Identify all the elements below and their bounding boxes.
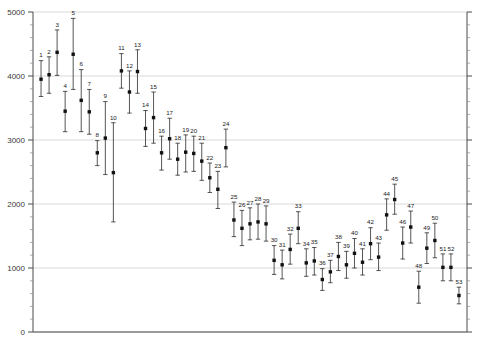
point-marker (337, 255, 340, 258)
point-marker (63, 110, 66, 113)
point-marker (168, 137, 171, 140)
point-marker (264, 222, 267, 225)
point-marker (47, 73, 50, 76)
point-marker (361, 261, 364, 264)
y-tick-label-4000: 4000 (7, 72, 25, 81)
point-label-38: 38 (335, 233, 342, 240)
point-marker (393, 198, 396, 201)
data-point-38 (336, 242, 340, 270)
point-label-41: 41 (359, 240, 366, 247)
point-label-19: 19 (182, 126, 189, 133)
data-point-18 (175, 143, 179, 175)
point-marker (160, 151, 163, 154)
data-point-28 (256, 204, 260, 239)
point-marker (288, 248, 291, 251)
y-tick-label-1000: 1000 (7, 264, 25, 273)
data-point-20 (192, 136, 196, 171)
point-marker (449, 266, 452, 269)
point-label-9: 9 (104, 92, 108, 99)
data-point-2 (47, 57, 51, 93)
data-point-30 (272, 246, 276, 275)
data-point-22 (208, 163, 212, 192)
point-label-20: 20 (190, 127, 197, 134)
point-label-29: 29 (263, 197, 270, 204)
data-point-47 (409, 211, 413, 243)
point-marker (224, 146, 227, 149)
point-marker (192, 152, 195, 155)
chart-container: 010002000300040005000 123456789101112131… (0, 0, 480, 343)
data-point-51 (441, 254, 445, 281)
y-tick-label-0: 0 (21, 328, 26, 337)
point-label-33: 33 (295, 202, 302, 209)
scatter-plot-with-error-bars: 010002000300040005000 123456789101112131… (0, 0, 480, 343)
point-label-43: 43 (375, 234, 382, 241)
point-label-25: 25 (230, 193, 237, 200)
right-axis-group (467, 12, 472, 332)
point-marker (329, 270, 332, 273)
point-label-34: 34 (303, 240, 310, 247)
point-marker (369, 242, 372, 245)
data-point-41 (360, 249, 364, 275)
point-marker (144, 127, 147, 130)
y-tick-label-5000: 5000 (7, 8, 25, 17)
point-marker (321, 278, 324, 281)
point-marker (136, 70, 139, 73)
data-point-17 (167, 118, 171, 159)
data-point-48 (417, 271, 421, 303)
gridlines-group (33, 12, 467, 332)
point-label-40: 40 (351, 229, 358, 236)
point-label-36: 36 (319, 259, 326, 266)
point-label-1: 1 (39, 51, 43, 58)
data-point-6 (79, 70, 83, 132)
data-point-46 (401, 227, 405, 259)
data-point-14 (143, 111, 147, 147)
point-marker (297, 227, 300, 230)
point-label-7: 7 (88, 80, 92, 87)
data-point-36 (320, 269, 324, 291)
point-label-26: 26 (239, 201, 246, 208)
y-axis-group (28, 12, 33, 332)
data-point-9 (103, 102, 107, 175)
point-label-11: 11 (118, 44, 125, 51)
y-tick-label-2000: 2000 (7, 200, 25, 209)
data-point-31 (280, 250, 284, 279)
point-marker (88, 110, 91, 113)
point-marker (104, 136, 107, 139)
point-labels-group: 1234567891011121314151617181920212223242… (39, 9, 463, 285)
point-marker (248, 222, 251, 225)
point-label-3: 3 (55, 21, 59, 28)
point-label-44: 44 (383, 190, 390, 197)
point-label-18: 18 (174, 134, 181, 141)
data-point-24 (224, 129, 228, 167)
point-marker (208, 176, 211, 179)
data-point-4 (63, 91, 67, 131)
point-label-51: 51 (439, 245, 446, 252)
point-label-48: 48 (415, 262, 422, 269)
data-point-8 (95, 141, 99, 166)
data-point-33 (296, 212, 300, 244)
point-label-32: 32 (287, 225, 294, 232)
point-marker (71, 53, 74, 56)
point-marker (200, 159, 203, 162)
point-label-27: 27 (247, 199, 254, 206)
point-marker (305, 261, 308, 264)
point-label-22: 22 (206, 154, 213, 161)
point-marker (353, 252, 356, 255)
data-point-49 (425, 233, 429, 264)
point-marker (385, 213, 388, 216)
point-label-39: 39 (343, 242, 350, 249)
point-label-45: 45 (391, 175, 398, 182)
point-label-35: 35 (311, 238, 318, 245)
point-label-6: 6 (79, 60, 83, 67)
data-point-12 (127, 71, 131, 113)
point-marker (112, 171, 115, 174)
point-label-10: 10 (110, 114, 117, 121)
data-point-13 (135, 50, 139, 94)
point-marker (441, 266, 444, 269)
point-marker (345, 263, 348, 266)
point-label-28: 28 (255, 195, 262, 202)
point-label-37: 37 (327, 251, 334, 258)
data-point-10 (111, 123, 115, 222)
point-marker (457, 294, 460, 297)
point-label-53: 53 (456, 278, 463, 285)
